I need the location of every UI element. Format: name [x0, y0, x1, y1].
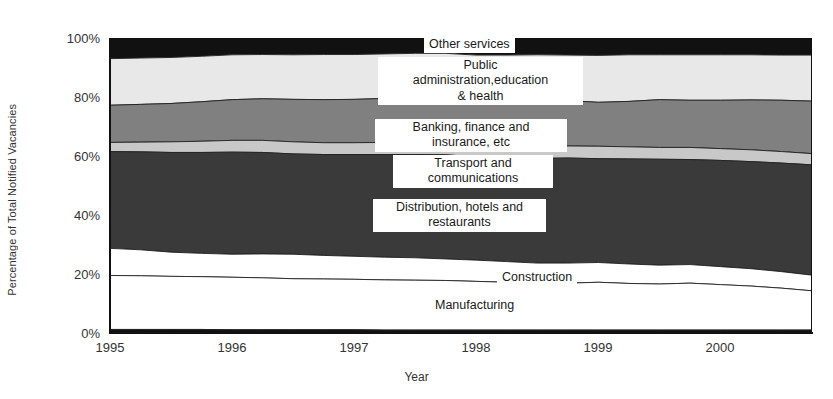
- x-tick-1998: 1998: [462, 340, 491, 355]
- annotation-distribution-hotels: Distribution, hotels and restaurants: [373, 199, 546, 232]
- x-tick-1999: 1999: [584, 340, 613, 355]
- y-axis-title: Percentage of Total Notified Vacancies: [6, 0, 18, 399]
- x-tick-2000: 2000: [706, 340, 735, 355]
- y-tick-80: 80%: [44, 90, 100, 105]
- x-tick-1996: 1996: [218, 340, 247, 355]
- annotation-public-administration: Public administration,education & health: [378, 57, 583, 105]
- y-axis-tick-labels: 100% 80% 60% 40% 20% 0%: [44, 0, 100, 399]
- y-tick-60: 60%: [44, 149, 100, 164]
- y-tick-40: 40%: [44, 208, 100, 223]
- annotation-transport-communications: Transport and communications: [393, 155, 553, 188]
- y-tick-0: 0%: [44, 326, 100, 341]
- y-axis-title-text: Percentage of Total Notified Vacancies: [6, 104, 18, 296]
- y-tick-100: 100%: [44, 31, 100, 46]
- x-axis-line: [109, 332, 813, 334]
- y-axis-line: [109, 38, 111, 334]
- annotation-manufacturing: Manufacturing: [430, 297, 519, 314]
- x-tick-1997: 1997: [340, 340, 369, 355]
- y-tick-20: 20%: [44, 267, 100, 282]
- stacked-area-chart: Percentage of Total Notified Vacancies 1…: [0, 0, 833, 399]
- x-tick-1995: 1995: [96, 340, 125, 355]
- x-axis-title: Year: [0, 370, 833, 384]
- annotation-construction: Construction: [497, 269, 577, 286]
- annotation-other-services: Other services: [424, 36, 515, 53]
- annotation-banking-finance: Banking, finance and insurance, etc: [375, 119, 567, 152]
